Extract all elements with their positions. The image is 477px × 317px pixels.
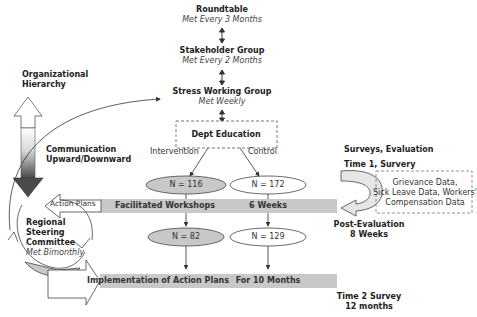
- workshops-duration: 6 Weeks: [249, 201, 287, 211]
- data-box-line3: Compensation Data: [385, 198, 464, 208]
- stress-working-title: Stress Working Group: [173, 87, 272, 97]
- committee-line3: Committee: [26, 238, 75, 248]
- org-hierarchy-line1: Organizational: [22, 70, 88, 80]
- intervention-start-count: N = 116: [169, 180, 202, 190]
- intervention-label: Intervention: [150, 147, 199, 157]
- data-box-line2: Sick Leave Data, Workers': [373, 188, 477, 198]
- committee-line1: Regional: [26, 218, 65, 228]
- post-evaluation-line1: Post-Evaluation: [334, 220, 405, 230]
- stakeholder-title: Stakeholder Group: [180, 46, 265, 56]
- workshops-label: Facilitated Workshops: [115, 201, 215, 211]
- intervention-end-count: N = 82: [172, 232, 200, 242]
- hierarchy-arrow-icon: [13, 97, 43, 197]
- communication-line2: Upward/Downward: [46, 155, 131, 165]
- evaluation-header: Surveys, Evaluation: [344, 145, 434, 155]
- org-hierarchy-line2: Hierarchy: [22, 80, 66, 90]
- control-end-count: N = 129: [251, 232, 284, 242]
- time1-label: Time 1, Survery: [344, 160, 415, 170]
- roundtable-frequency: Met Every 3 Months: [182, 15, 262, 25]
- dept-education-label: Dept Education: [191, 130, 260, 140]
- control-label: Control: [248, 147, 277, 157]
- committee-line4: Met Bimonthly: [26, 248, 84, 258]
- stakeholder-frequency: Met Every 2 Months: [182, 56, 262, 66]
- time2-line1: Time 2 Survey: [337, 292, 401, 302]
- control-start-count: N = 172: [251, 180, 284, 190]
- roundtable-title: Roundtable: [196, 5, 248, 15]
- data-box-line1: Grievance Data,: [393, 178, 458, 188]
- stress-working-frequency: Met Weekly: [199, 97, 246, 107]
- time2-line2: 12 months: [345, 302, 393, 312]
- implementation-label: Implementation of Action Plans: [87, 276, 229, 286]
- action-plans-label: Action Plans: [50, 199, 96, 208]
- committee-line2: Steering: [26, 228, 65, 238]
- post-evaluation-line2: 8 Weeks: [350, 230, 388, 240]
- implementation-duration: For 10 Months: [236, 276, 301, 286]
- communication-line1: Communication: [46, 145, 116, 155]
- double-arrow-icon: [220, 28, 225, 122]
